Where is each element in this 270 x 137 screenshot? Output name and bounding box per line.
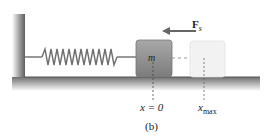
mass-label: m (148, 52, 155, 63)
xmax-label: xmax (198, 101, 217, 116)
force-symbol: F (192, 18, 199, 30)
equilibrium-label: x = 0 (140, 101, 163, 113)
floor (12, 77, 260, 91)
force-label: Fs (192, 18, 202, 33)
ghost-block (190, 41, 225, 77)
figure-caption: (b) (145, 120, 158, 132)
force-subscript: s (199, 24, 202, 33)
spring (25, 49, 136, 65)
spring-mass-diagram (0, 0, 270, 137)
force-arrow (162, 27, 196, 35)
xmax-subscript: max (203, 107, 217, 116)
wall (12, 14, 25, 78)
